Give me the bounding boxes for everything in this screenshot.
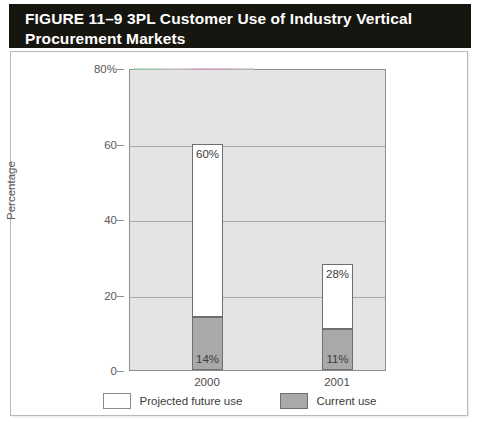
- legend-swatch-projected-icon: [103, 393, 131, 409]
- scan-artifact: [134, 68, 254, 70]
- figure-title-banner: FIGURE 11–9 3PL Customer Use of Industry…: [9, 4, 471, 48]
- legend-swatch-current-icon: [280, 393, 308, 409]
- bar-2001-projected-segment[interactable]: 28%: [322, 264, 353, 328]
- y-tick-label: 60: [57, 139, 123, 151]
- plot-area: 60% 14% 28% 11%: [129, 69, 386, 371]
- bar-2000-projected-value: 60%: [193, 148, 222, 160]
- bar-2000-projected-segment[interactable]: 60%: [192, 144, 223, 318]
- figure-body: Percentage 80% 60 40 20 0: [10, 51, 468, 416]
- bar-2001-current-segment[interactable]: 11%: [322, 329, 353, 371]
- y-axis-title: Percentage: [5, 161, 17, 220]
- y-tick-label: 20: [57, 290, 123, 302]
- stacked-bar-chart: Percentage 80% 60 40 20 0: [11, 52, 469, 417]
- figure-title-line-1: FIGURE 11–9 3PL Customer Use of Industry…: [25, 9, 471, 29]
- bar-2001-current-value: 11%: [323, 353, 352, 365]
- x-label-2001: 2001: [324, 376, 350, 388]
- y-tick-label: 80%: [57, 63, 123, 75]
- legend-item-projected-future-use[interactable]: Projected future use: [103, 393, 242, 409]
- bar-2001[interactable]: 28% 11%: [322, 264, 353, 370]
- chart-legend: Projected future use Current use: [11, 393, 469, 409]
- y-tick-label: 0: [57, 365, 123, 377]
- x-label-2000: 2000: [194, 376, 220, 388]
- bar-2001-projected-value: 28%: [323, 268, 352, 280]
- figure-title-line-2: Procurement Markets: [25, 29, 471, 49]
- y-tick-label: 40: [57, 214, 123, 226]
- bar-2000-current-value: 14%: [193, 353, 222, 365]
- bar-2000[interactable]: 60% 14%: [192, 144, 223, 371]
- gridline-40: [130, 221, 385, 222]
- gridline-60: [130, 146, 385, 147]
- legend-label-projected: Projected future use: [139, 395, 242, 407]
- bar-2000-current-segment[interactable]: 14%: [192, 317, 223, 370]
- legend-item-current-use[interactable]: Current use: [280, 393, 376, 409]
- legend-label-current: Current use: [316, 395, 376, 407]
